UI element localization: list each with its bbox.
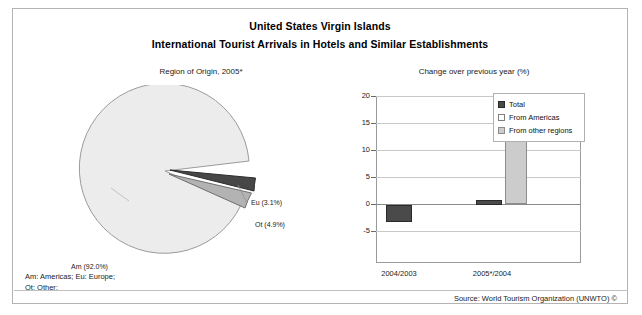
ytick-label-0: 0 (340, 199, 370, 208)
bar-2005-2004-total[interactable] (476, 200, 502, 205)
ytick-label-15: 15 (340, 118, 370, 127)
ytick-label-20: 20 (340, 91, 370, 100)
pie-chart-subtitle: Region of Origin, 2005* (101, 67, 301, 76)
tick-mark-5 (371, 177, 376, 178)
bar-chart-subtitle: Change over previous year (%) (369, 67, 579, 76)
title-block: United States Virgin Islands Internation… (13, 19, 627, 52)
bar-2004-2003-total[interactable] (386, 205, 412, 222)
page-title: United States Virgin Islands (13, 19, 627, 34)
page-subtitle: International Tourist Arrivals in Hotels… (13, 37, 627, 52)
legend-item-from-americas[interactable]: From Americas (498, 111, 579, 124)
tick-mark-10 (371, 150, 376, 151)
legend-label-from-other-regions: From other regions (509, 126, 572, 135)
footer-divider (14, 290, 627, 291)
legend-label-from-americas: From Americas (509, 113, 559, 122)
bar-chart-legend: Total From Americas From other regions (493, 93, 585, 142)
xtick-label-2004-2003: 2004/2003 (364, 269, 434, 278)
gridline-5 (376, 177, 581, 178)
ytick-label-10: 10 (340, 145, 370, 154)
tick-mark-15 (371, 123, 376, 124)
xtick-label-2005-2004: 2005*/2004 (457, 269, 527, 278)
pie-label-ot: Ot (4.9%) (255, 221, 285, 228)
gridline-minus5 (376, 231, 581, 232)
ytick-label-5: 5 (340, 172, 370, 181)
pie-slice-am (79, 85, 249, 253)
tick-mark-20 (371, 96, 376, 97)
legend-swatch-from-americas-icon (498, 114, 505, 121)
pie-label-eu: Eu (3.1%) (251, 199, 282, 206)
chart-card: United States Virgin Islands Internation… (12, 8, 628, 304)
gridline-10 (376, 150, 581, 151)
tick-mark-0 (371, 204, 376, 205)
pie-chart: Eu (3.1%) Ot (4.9%) Am (92.0%) (33, 85, 323, 260)
legend-swatch-total-icon (498, 101, 505, 108)
footnote-abbreviations-line1: Am: Americas; Eu: Europe; (25, 272, 115, 281)
source-attribution: Source: World Tourism Organization (UNWT… (454, 294, 617, 303)
legend-swatch-from-other-regions-icon (498, 127, 505, 134)
legend-item-from-other-regions[interactable]: From other regions (498, 124, 579, 137)
pie-label-am: Am (92.0%) (71, 263, 108, 270)
ytick-label-minus5: -5 (340, 226, 370, 235)
legend-item-total[interactable]: Total (498, 98, 579, 111)
legend-label-total: Total (509, 100, 525, 109)
tick-mark-minus5 (371, 231, 376, 232)
pie-chart-svg (33, 85, 323, 260)
